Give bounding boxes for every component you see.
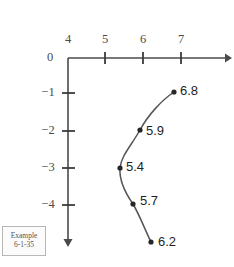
- y-tick-label-minus-3: −3: [41, 160, 54, 174]
- x-tick-label-5: 5: [102, 32, 108, 46]
- data-point-5-4: [117, 165, 122, 170]
- data-point-6-8: [171, 89, 176, 94]
- x-tick-label-4: 4: [65, 32, 72, 46]
- x-tick-label-7: 7: [178, 32, 184, 46]
- data-label-6-8: 6.8: [180, 83, 198, 98]
- data-point-5-7: [130, 201, 135, 206]
- y-axis-arrowhead: [64, 239, 73, 247]
- y-tick-label-0: 0: [47, 50, 53, 64]
- data-label-5-9: 5.9: [146, 123, 164, 138]
- y-tick-label-minus-4: −4: [41, 197, 55, 211]
- x-tick-label-6: 6: [140, 32, 146, 46]
- example-label-line-2: 6-1-35: [14, 241, 34, 250]
- data-label-5-4: 5.4: [126, 159, 144, 174]
- example-reference-box: Example 6-1-35: [2, 226, 46, 256]
- y-tick-label-minus-1: −1: [41, 85, 54, 99]
- data-point-5-9: [137, 127, 142, 132]
- data-label-5-7: 5.7: [140, 193, 158, 208]
- data-label-6-2: 6.2: [158, 234, 176, 249]
- data-point-6-2: [148, 239, 153, 244]
- y-tick-label-minus-2: −2: [41, 123, 54, 137]
- x-axis-arrowhead: [225, 54, 232, 63]
